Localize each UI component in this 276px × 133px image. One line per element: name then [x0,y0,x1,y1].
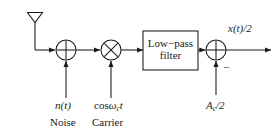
noise-text-label: Noise [50,117,76,128]
diagram-canvas [0,0,276,133]
filter-label-line-2: filter [143,49,198,61]
summing-junction-2-circle [206,40,226,60]
filter-label-line-1: Low−pass [143,37,198,49]
dc-offset-label: Ac/2 [206,100,225,113]
carrier-cos-text: cos [94,99,109,111]
dc-offset-A-symbol: A [206,99,213,111]
minus-sign-label: − [223,62,229,73]
block-diagram-figure: Low−pass filter − n(t) Noise cosωct Carr… [0,0,276,133]
carrier-text-label: Carrier [92,117,123,128]
carrier-math-label: cosωct [94,100,123,113]
antenna-icon [28,13,56,51]
carrier-t-symbol: t [120,99,123,111]
output-expression: (t)/2 [233,22,252,34]
summing-junction-circle [56,40,76,60]
multiplier-circle [101,40,121,60]
low-pass-filter-label: Low−pass filter [143,37,198,62]
output-signal-label: x(t)/2 [228,23,252,34]
noise-math-label: n(t) [55,100,71,111]
dc-offset-divisor: /2 [216,99,225,111]
